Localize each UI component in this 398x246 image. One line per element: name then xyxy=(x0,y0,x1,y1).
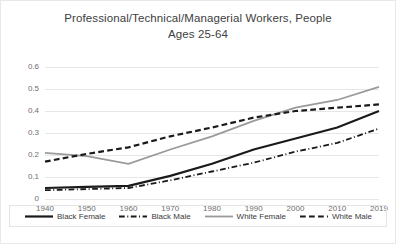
legend-swatch-icon xyxy=(204,212,234,221)
legend-label: Black Female xyxy=(57,212,105,221)
legend-label: Black Male xyxy=(151,212,190,221)
series-lines xyxy=(45,87,379,190)
chart-legend: Black FemaleBlack MaleWhite FemaleWhite … xyxy=(9,205,387,227)
legend-swatch-icon xyxy=(118,212,148,221)
gridlines xyxy=(45,67,379,199)
legend-label: White Female xyxy=(237,212,286,221)
legend-item-black-male[interactable]: Black Male xyxy=(118,212,190,221)
series-line-black-male xyxy=(45,129,379,191)
legend-label: White Male xyxy=(332,212,372,221)
legend-item-white-female[interactable]: White Female xyxy=(204,212,286,221)
series-line-black-female xyxy=(45,111,379,188)
legend-swatch-icon xyxy=(299,212,329,221)
legend-item-black-female[interactable]: Black Female xyxy=(24,212,105,221)
series-line-white-female xyxy=(45,87,379,164)
chart-container: Professional/Technical/Managerial Worker… xyxy=(0,0,396,244)
legend-swatch-icon xyxy=(24,212,54,221)
legend-item-white-male[interactable]: White Male xyxy=(299,212,372,221)
